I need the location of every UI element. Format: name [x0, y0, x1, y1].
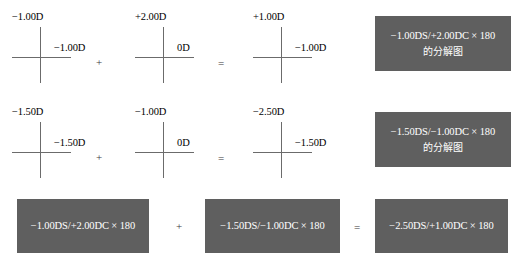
- result-box-row2: −1.50DS/−1.00DC × 180 的分解图: [375, 112, 511, 167]
- cross-vertical-line: [40, 122, 41, 178]
- cross-vertical-line: [281, 122, 282, 178]
- cross-vertical-line: [163, 27, 164, 83]
- summary-box-middle: −1.50DS/−1.00DC × 180: [205, 199, 340, 253]
- cross-horizontal-power-label: −1.00D: [295, 42, 326, 53]
- cross-vertical-power-label: −1.00D: [135, 106, 166, 117]
- result-box-row1: −1.00DS/+2.00DC × 180 的分解图: [375, 16, 511, 71]
- operator-equals-row1: =: [218, 58, 224, 69]
- summary-operator-plus: +: [176, 221, 182, 232]
- cross-horizontal-line: [12, 152, 71, 153]
- cross-vertical-line: [163, 122, 164, 178]
- result-box-row1-line2: 的分解图: [423, 44, 463, 60]
- cross-vertical-power-label: −1.00D: [12, 11, 43, 22]
- result-box-row2-line1: −1.50DS/−1.00DC × 180: [391, 124, 495, 140]
- cross-vertical-power-label: +2.00D: [135, 11, 166, 22]
- cross-vertical-power-label: −2.50D: [253, 106, 284, 117]
- cross-horizontal-line: [253, 152, 312, 153]
- diagram-canvas: −1.00D −1.00D + +2.00D 0D = +1.00D −1.00…: [0, 0, 522, 263]
- summary-box-left: −1.00DS/+2.00DC × 180: [17, 199, 149, 253]
- result-box-row2-line2: 的分解图: [423, 140, 463, 156]
- cross-horizontal-power-label: 0D: [177, 137, 190, 148]
- cross-vertical-power-label: −1.50D: [12, 106, 43, 117]
- summary-box-right: −2.50DS/+1.00DC × 180: [375, 199, 508, 253]
- summary-box-right-text: −2.50DS/+1.00DC × 180: [389, 218, 493, 234]
- result-box-row1-line1: −1.00DS/+2.00DC × 180: [391, 28, 495, 44]
- summary-box-middle-text: −1.50DS/−1.00DC × 180: [220, 218, 324, 234]
- cross-horizontal-line: [135, 57, 194, 58]
- operator-plus-row2: +: [96, 152, 102, 163]
- cross-horizontal-power-label: −1.50D: [295, 137, 326, 148]
- cross-horizontal-line: [135, 152, 194, 153]
- summary-box-left-text: −1.00DS/+2.00DC × 180: [31, 218, 135, 234]
- cross-horizontal-power-label: −1.00D: [54, 42, 85, 53]
- cross-horizontal-line: [253, 57, 312, 58]
- cross-vertical-line: [40, 27, 41, 83]
- cross-horizontal-power-label: −1.50D: [54, 137, 85, 148]
- cross-vertical-power-label: +1.00D: [253, 11, 284, 22]
- operator-equals-row2: =: [218, 153, 224, 164]
- cross-horizontal-power-label: 0D: [177, 42, 190, 53]
- cross-horizontal-line: [12, 57, 71, 58]
- operator-plus-row1: +: [96, 57, 102, 68]
- summary-operator-equals: =: [354, 222, 360, 233]
- cross-vertical-line: [281, 27, 282, 83]
